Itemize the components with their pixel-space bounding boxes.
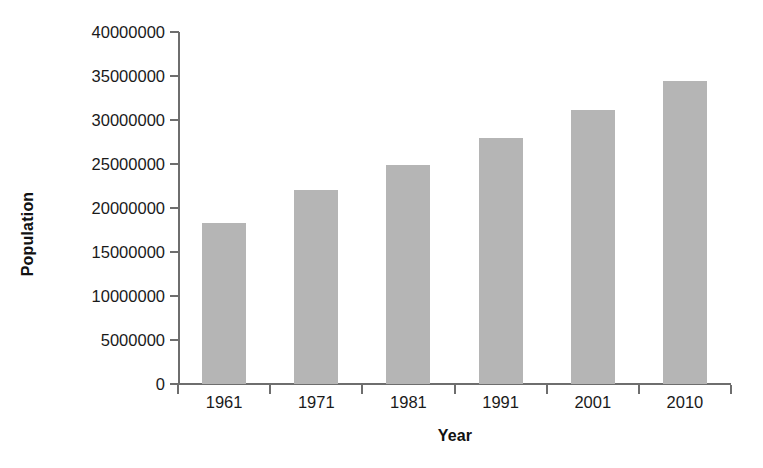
x-axis-tick: [638, 385, 640, 394]
y-axis-tick: [170, 207, 179, 209]
y-axis-tick: [170, 31, 179, 33]
x-axis-title: Year: [178, 427, 732, 445]
y-axis-tick: [170, 339, 179, 341]
x-axis-tick-label: 1961: [178, 394, 270, 411]
bar: [479, 138, 523, 384]
bar: [663, 81, 707, 384]
x-axis-tick-label: 1991: [455, 394, 547, 411]
bar: [386, 165, 430, 384]
y-axis-tick: [170, 295, 179, 297]
x-axis-tick-label: 1971: [270, 394, 362, 411]
y-axis-tick-label: 30000000: [0, 112, 165, 129]
bar: [202, 223, 246, 384]
y-axis-tick: [170, 163, 179, 165]
x-axis-tick: [177, 385, 179, 394]
y-axis-tick-label: 15000000: [0, 244, 165, 261]
y-axis-tick-label: 20000000: [0, 200, 165, 217]
x-axis-tick: [269, 385, 271, 394]
y-axis-tick-label: 40000000: [0, 24, 165, 41]
y-axis-tick-label: 5000000: [0, 332, 165, 349]
x-axis-tick: [454, 385, 456, 394]
x-axis-tick-label: 1981: [362, 394, 454, 411]
x-axis-tick: [361, 385, 363, 394]
y-axis-tick: [170, 251, 179, 253]
y-axis-tick-label: 35000000: [0, 68, 165, 85]
y-axis-tick-label: 25000000: [0, 156, 165, 173]
x-axis-tick: [730, 385, 732, 394]
y-axis-tick: [170, 119, 179, 121]
y-axis-tick: [170, 75, 179, 77]
bar: [571, 110, 615, 384]
y-axis-tick-label: 0: [0, 376, 165, 393]
x-axis-tick: [546, 385, 548, 394]
x-axis-tick-label: 2010: [639, 394, 731, 411]
x-axis-tick-label: 2001: [547, 394, 639, 411]
bar-chart: Population 05000000100000001500000020000…: [0, 0, 763, 468]
y-axis-tick-label: 10000000: [0, 288, 165, 305]
bar: [294, 190, 338, 384]
